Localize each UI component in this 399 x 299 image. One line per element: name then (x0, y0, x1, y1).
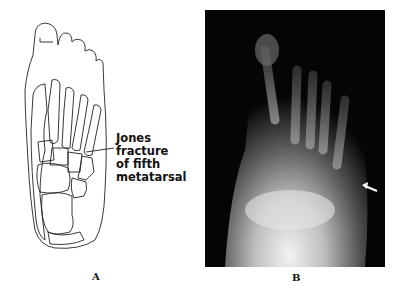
panel-a-label: A (92, 271, 100, 282)
xray-image (205, 10, 385, 267)
panel-a-foot-diagram: Jones fracture of fifth metatarsal A (0, 0, 195, 299)
panel-b-radiograph (205, 10, 385, 267)
panel-b-label: B (292, 272, 300, 283)
fracture-annotation: Jones fracture of fifth metatarsal (116, 132, 187, 184)
annotation-line-4: metatarsal (116, 171, 187, 184)
